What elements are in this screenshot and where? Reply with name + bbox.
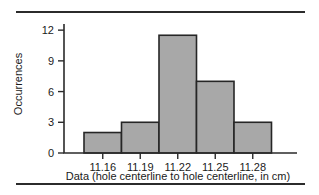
histogram-bar: [122, 122, 160, 153]
histogram-figure: 0 3 6 9 12 11.16 11.19 11.22 11.25 11.28…: [0, 0, 319, 195]
histogram-bar: [84, 133, 122, 153]
bars-group: [84, 35, 272, 153]
y-tick-label: 0: [48, 147, 54, 159]
histogram-plot: 0 3 6 9 12 11.16 11.19 11.22 11.25 11.28…: [0, 14, 319, 184]
x-tick-marks: [103, 153, 253, 159]
y-tick-label: 6: [48, 86, 54, 98]
histogram-bar: [234, 122, 272, 153]
histogram-bar: [159, 35, 197, 153]
y-tick-marks: [58, 30, 64, 153]
y-tick-label: 3: [48, 116, 54, 128]
histogram-bar: [197, 81, 235, 153]
y-tick-labels: 0 3 6 9 12: [42, 24, 54, 159]
top-divider-rule: [16, 11, 305, 13]
y-tick-label: 9: [48, 55, 54, 67]
x-axis-title: Data (hole centerline to hole centerline…: [66, 170, 290, 182]
y-axis-title: Occurrences: [12, 52, 24, 115]
y-tick-label: 12: [42, 24, 54, 36]
